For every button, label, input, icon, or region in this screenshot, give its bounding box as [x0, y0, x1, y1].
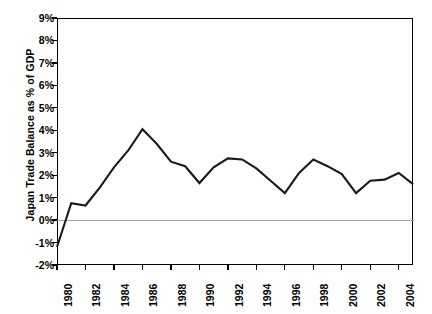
y-axis-tick-mark: [52, 242, 57, 243]
x-axis-tick-label: 1980: [62, 284, 74, 307]
x-axis-tick-mark: [256, 265, 257, 270]
y-axis-tick-label: 2%: [4, 169, 54, 181]
y-axis-tick-mark: [52, 175, 57, 176]
y-axis-tick-labels: 9%8%7%6%5%4%3%2%1%0%-1%-2%: [0, 0, 54, 314]
plot-area: [57, 18, 413, 265]
x-axis-tick-mark: [85, 265, 86, 270]
x-axis-tick-label: 1986: [147, 284, 159, 307]
y-axis-tick-label: -2%: [4, 259, 54, 271]
x-axis-tick-mark: [227, 265, 228, 270]
x-axis-tick-label: 1994: [261, 284, 273, 307]
y-axis-tick-mark: [52, 130, 57, 131]
y-axis-tick-label: 4%: [4, 124, 54, 136]
y-axis-tick-label: 6%: [4, 79, 54, 91]
y-axis-tick-mark: [52, 40, 57, 41]
y-axis-tick-label: 3%: [4, 147, 54, 159]
x-axis-tick-mark: [370, 265, 371, 270]
y-axis-tick-mark: [52, 107, 57, 108]
y-axis-tick-mark: [52, 17, 57, 18]
x-axis-tick-mark: [142, 265, 143, 270]
zero-reference-line: [57, 220, 414, 221]
x-axis-tick-label: 1982: [90, 284, 102, 307]
x-axis-tick-label: 2002: [375, 284, 387, 307]
y-axis-tick-label: 5%: [4, 102, 54, 114]
x-axis-tick-mark: [284, 265, 285, 270]
x-axis-tick-label: 1988: [176, 284, 188, 307]
x-axis-tick-label: 1984: [119, 284, 131, 307]
y-axis-tick-mark: [52, 264, 57, 265]
x-axis-tick-label: 1992: [233, 284, 245, 307]
chart-container: Japan Trade Balance as % of GDP 9%8%7%6%…: [0, 0, 432, 314]
y-axis-tick-mark: [52, 219, 57, 220]
x-axis-tick-label: 2000: [347, 284, 359, 307]
x-axis-tick-mark: [113, 265, 114, 270]
y-axis-tick-label: 1%: [4, 192, 54, 204]
x-axis-tick-mark: [341, 265, 342, 270]
y-axis-tick-mark: [52, 62, 57, 63]
x-axis-tick-label: 2004: [404, 284, 416, 307]
y-axis-tick-mark: [52, 197, 57, 198]
x-axis-tick-mark: [199, 265, 200, 270]
y-axis-tick-mark: [52, 152, 57, 153]
y-axis-tick-label: 0%: [4, 214, 54, 226]
y-axis-tick-label: 8%: [4, 34, 54, 46]
x-axis-tick-mark: [170, 265, 171, 270]
x-axis-tick-mark: [56, 265, 57, 270]
y-axis-tick-label: 9%: [4, 12, 54, 24]
y-axis-tick-mark: [52, 85, 57, 86]
x-axis-tick-label: 1998: [318, 284, 330, 307]
x-axis-tick-label: 1996: [290, 284, 302, 307]
x-axis-tick-mark: [398, 265, 399, 270]
x-axis-tick-label: 1990: [204, 284, 216, 307]
x-axis-tick-mark: [313, 265, 314, 270]
y-axis-tick-label: -1%: [4, 237, 54, 249]
y-axis-tick-label: 7%: [4, 57, 54, 69]
